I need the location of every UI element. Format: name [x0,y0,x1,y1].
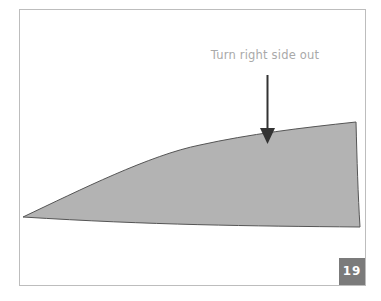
step-number-badge: 19 [339,258,365,285]
annotation-label: Turn right side out [205,48,325,62]
fabric-diagram [0,0,381,301]
fabric-piece-shape [23,122,360,227]
